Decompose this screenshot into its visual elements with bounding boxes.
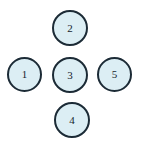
diagram-node-3-label: 3 <box>67 70 73 81</box>
diagram-node-1[interactable]: 1 <box>7 57 42 92</box>
diagram-node-1-label: 1 <box>22 69 28 80</box>
diagram-node-2[interactable]: 2 <box>52 10 88 46</box>
diagram-node-2-label: 2 <box>67 23 73 34</box>
diagram-node-4-label: 4 <box>69 115 75 126</box>
diagram-node-3[interactable]: 3 <box>52 57 88 93</box>
node-diagram-canvas: 2 1 3 5 4 <box>0 0 141 148</box>
diagram-node-4[interactable]: 4 <box>54 102 90 138</box>
diagram-node-5-label: 5 <box>112 69 118 80</box>
diagram-node-5[interactable]: 5 <box>97 57 132 92</box>
